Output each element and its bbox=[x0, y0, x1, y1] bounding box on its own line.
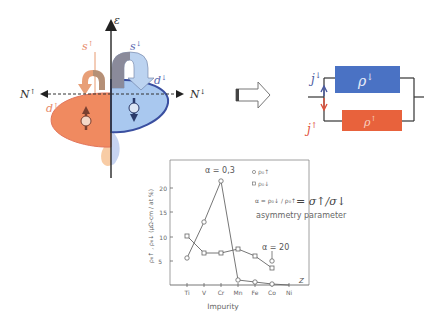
alpha-high-annotation: α = 20 bbox=[262, 243, 289, 252]
d-down-label: d↓ bbox=[154, 74, 167, 87]
xtick-cr: Cr bbox=[218, 289, 225, 296]
asymmetry-parameter-label: asymmetry parameter bbox=[256, 211, 347, 220]
n-down-label: N↓ bbox=[189, 88, 206, 101]
alpha-definition: α = ρ₀↓ / ρ₀↑ bbox=[255, 197, 296, 205]
y-axis-label: ρ₀↑ , ρ₀↓ (μΩ-cm / at %) bbox=[147, 189, 155, 263]
ytick-5: 5 bbox=[158, 258, 162, 265]
resistivity-chart bbox=[170, 160, 309, 287]
xtick-fe: Fe bbox=[252, 289, 259, 296]
alpha-low-annotation: α = 0,3 bbox=[205, 166, 235, 175]
spin-down-tail bbox=[111, 130, 120, 165]
s-up-label: s↑ bbox=[82, 40, 94, 53]
legend-rho-down: ρ₀↓ bbox=[258, 180, 269, 188]
x-axis-label: Impurity bbox=[207, 302, 239, 311]
series-rho-down bbox=[187, 236, 272, 268]
xtick-v: V bbox=[202, 289, 207, 296]
alpha-sigma-ratio: = σ↑/σ↓ bbox=[296, 195, 346, 208]
legend-rho-up: ρ₀↑ bbox=[258, 168, 269, 176]
figure-canvas: ε N↑ N↓ s↑ s↓ d↑ d↓ j↓ j↑ ρ↓ ρ↑ bbox=[0, 0, 444, 325]
density-of-states-diagram bbox=[42, 22, 182, 178]
ytick-15: 15 bbox=[159, 209, 167, 216]
j-down-label: j↓ bbox=[308, 71, 321, 86]
n-up-label: N↑ bbox=[19, 88, 36, 101]
energy-label: ε bbox=[114, 14, 120, 27]
j-up-label: j↑ bbox=[304, 121, 317, 136]
xtick-mn: Mn bbox=[234, 289, 243, 296]
xtick-ni: Ni bbox=[286, 289, 292, 296]
s-down-label: s↓ bbox=[130, 40, 142, 53]
hollow-right-arrow-icon bbox=[236, 82, 270, 108]
ytick-20: 20 bbox=[159, 185, 167, 192]
ytick-10: 10 bbox=[159, 234, 167, 241]
xtick-co: Co bbox=[268, 289, 276, 296]
z-label: Z bbox=[298, 277, 304, 285]
xtick-ti: Ti bbox=[183, 289, 189, 296]
